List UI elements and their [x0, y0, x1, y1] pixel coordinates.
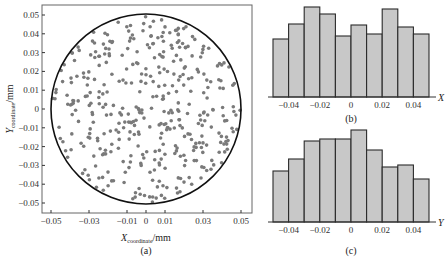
scatter-point	[232, 105, 236, 109]
scatter-point	[216, 64, 220, 68]
scatter-point	[131, 33, 135, 37]
scatter-point	[177, 176, 181, 180]
scatter-point	[76, 99, 80, 103]
scatter-point	[134, 119, 138, 123]
histogram-bar	[398, 27, 414, 97]
scatter-point	[142, 156, 146, 160]
histogram-bar	[398, 165, 414, 222]
scatter-point	[121, 78, 125, 82]
histogram-bar	[351, 130, 367, 222]
scatter-point	[191, 35, 195, 39]
scatter-point	[187, 176, 191, 180]
scatter-point	[182, 153, 186, 157]
scatter-point	[57, 125, 61, 129]
scatter-point	[194, 146, 198, 150]
scatter-point	[101, 176, 105, 180]
scatter-point	[150, 107, 154, 111]
scatter-point	[86, 173, 90, 177]
scatter-point	[109, 113, 113, 117]
histogram-bar	[351, 25, 367, 97]
scatter-point	[54, 91, 58, 95]
scatter-point	[172, 72, 176, 76]
scatter-point	[131, 63, 135, 67]
scatter-point	[169, 119, 173, 123]
scatter-point	[148, 195, 152, 199]
histogram-bar	[335, 139, 351, 222]
scatter-point	[201, 141, 205, 145]
scatter-point	[223, 119, 227, 123]
scatter-point	[128, 130, 132, 134]
scatter-point	[218, 86, 222, 90]
x-tick-label: −0.02	[309, 100, 330, 110]
scatter-point	[102, 83, 106, 87]
scatter-point	[192, 149, 196, 153]
histogram-bar	[320, 139, 336, 222]
x-tick-label: 0.02	[374, 100, 390, 110]
scatter-point	[81, 172, 85, 176]
scatter-point	[162, 110, 166, 114]
scatter-point	[86, 76, 90, 80]
scatter-point	[161, 31, 165, 35]
histogram-bars	[273, 130, 429, 222]
scatter-point	[162, 67, 166, 71]
scatter-point	[82, 71, 86, 75]
scatter-point	[129, 24, 133, 28]
scatter-point	[179, 58, 183, 62]
histogram-bar	[320, 14, 336, 97]
scatter-point	[76, 45, 80, 49]
scatter-point	[97, 176, 101, 180]
y-tick-label: 0.04	[23, 29, 39, 39]
scatter-point	[173, 126, 177, 130]
scatter-point	[121, 160, 125, 164]
scatter-point	[148, 170, 152, 174]
scatter-point	[226, 139, 230, 143]
scatter-point	[139, 164, 143, 168]
scatter-point	[97, 64, 101, 68]
scatter-point	[88, 136, 92, 140]
x-tick-label: 0	[144, 216, 149, 226]
scatter-point	[186, 112, 190, 116]
x-axis-ticks: −0.04−0.0200.020.04	[278, 100, 422, 110]
scatter-point	[178, 75, 182, 79]
scatter-point	[187, 77, 191, 81]
scatter-point	[171, 84, 175, 88]
x-tick-label: −0.04	[278, 100, 299, 110]
scatter-point	[90, 111, 94, 115]
scatter-point	[144, 67, 148, 71]
y-tick-label: 0.02	[23, 66, 39, 76]
scatter-point	[104, 47, 108, 51]
scatter-point	[93, 56, 97, 60]
scatter-point	[142, 22, 146, 26]
histogram-bar	[304, 7, 320, 97]
scatter-point	[168, 31, 172, 35]
x-tick-label: 0.01	[157, 216, 173, 226]
scatter-point	[199, 55, 203, 59]
scatter-point	[129, 154, 133, 158]
scatter-point	[212, 163, 216, 167]
scatter-point	[175, 54, 179, 58]
scatter-point	[205, 169, 209, 173]
x-tick-label: 0.05	[233, 216, 249, 226]
scatter-point	[159, 157, 163, 161]
scatter-point	[205, 96, 209, 100]
scatter-point	[122, 181, 126, 185]
scatter-point	[163, 166, 167, 170]
histogram-bar	[273, 39, 289, 97]
scatter-point	[135, 50, 139, 54]
scatter-point	[112, 179, 116, 183]
x-tick-label: 0	[349, 225, 354, 235]
scatter-point	[135, 61, 139, 65]
scatter-point	[117, 138, 121, 142]
scatter-point	[142, 116, 146, 120]
scatter-point	[187, 102, 191, 106]
scatter-point	[66, 156, 70, 160]
scatter-point	[179, 155, 183, 159]
scatter-point	[217, 150, 221, 154]
scatter-point	[88, 127, 92, 131]
histogram-y-panel: −0.04−0.0200.020.04 Y (c)	[268, 130, 445, 257]
scatter-point	[175, 90, 179, 94]
scatter-point	[93, 78, 97, 82]
scatter-point	[149, 75, 153, 79]
scatter-point	[121, 106, 125, 110]
scatter-point	[105, 61, 109, 65]
